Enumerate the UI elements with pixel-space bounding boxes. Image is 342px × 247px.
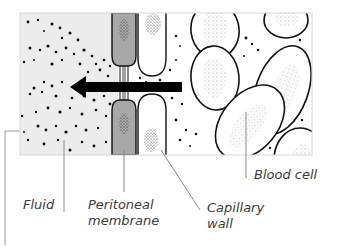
- label-capillary-line1: Capillary: [207, 200, 264, 216]
- bracket-line: [5, 131, 20, 245]
- label-blood-cell: Blood cell: [254, 167, 317, 183]
- label-peritoneal-line1: Peritoneal: [88, 197, 159, 213]
- label-peritoneal-line2: membrane: [88, 213, 159, 229]
- label-peritoneal-membrane: Peritoneal membrane: [88, 197, 159, 229]
- label-capillary-line2: wall: [207, 216, 264, 232]
- label-capillary-wall: Capillary wall: [207, 200, 264, 232]
- label-fluid: Fluid: [23, 197, 54, 213]
